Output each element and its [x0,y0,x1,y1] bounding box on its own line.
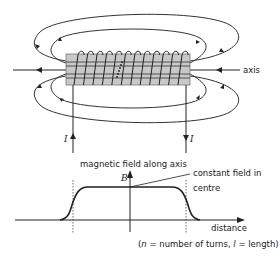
current-label-right: I [189,134,194,144]
annotation-leader [130,174,190,187]
footnote: (n = number of turns, l = length) [138,239,279,249]
annotation-line1: constant field in [193,168,261,178]
arrow-head [196,40,200,44]
solenoid-core [66,54,190,85]
dot [117,73,119,75]
current-label-left: I [63,134,68,144]
x-axis-label: distance [211,223,247,233]
arrow-head [220,84,224,89]
dot [120,64,122,66]
y-axis-label: B [120,173,128,183]
arrow-head [219,48,224,52]
solenoid-diagram: axis I I magnetic field along axis B dis… [0,0,280,258]
axis-arrow-left [36,67,42,73]
axis-label: axis [243,65,261,75]
footnote-end: = length) [236,239,279,249]
graph-title: magnetic field along axis [80,159,187,169]
dot [118,70,120,72]
axis-arrow-right [216,67,222,73]
dot [119,67,121,69]
current-arrow-down [183,135,189,141]
footnote-mid: = number of turns, [147,239,234,249]
y-axis-arrow [127,170,133,178]
current-arrow-up [70,133,76,139]
dot [121,61,123,63]
annotation-line2: centre [193,183,220,193]
dot [116,76,118,78]
